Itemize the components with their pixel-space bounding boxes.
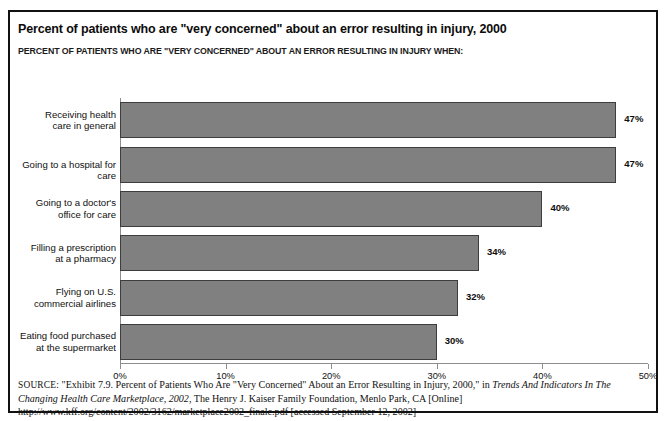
x-tick <box>120 364 121 369</box>
chart-title: Percent of patients who are "very concer… <box>18 22 638 36</box>
x-tick <box>648 364 649 369</box>
y-axis-label: Eating food purchased at the supermarket <box>16 330 116 353</box>
plot-area: 47%47%40%34%32%30% 0%10%20%30%40%50% <box>120 98 648 364</box>
y-axis-label: Going to a hospital for care <box>16 159 116 182</box>
source-label: SOURCE: <box>18 380 59 390</box>
y-axis-label: Receiving health care in general <box>16 109 116 132</box>
y-axis-label: Flying on U.S. commercial airlines <box>16 286 116 309</box>
source-note: SOURCE: "Exhibit 7.9. Percent of Patient… <box>18 378 650 419</box>
source-text-1: "Exhibit 7.9. Percent of Patients Who Ar… <box>59 379 492 390</box>
x-tick <box>437 364 438 369</box>
chart-subtitle: PERCENT OF PATIENTS WHO ARE "VERY CONCER… <box>18 46 613 56</box>
y-axis-label: Filling a prescription at a pharmacy <box>16 242 116 265</box>
figure-frame: Percent of patients who are "very concer… <box>8 10 658 413</box>
y-axis-label: Going to a doctor's office for care <box>16 197 116 220</box>
x-tick <box>542 364 543 369</box>
x-tick <box>331 364 332 369</box>
x-axis-ticks: 0%10%20%30%40%50% <box>120 98 648 364</box>
x-tick <box>226 364 227 369</box>
